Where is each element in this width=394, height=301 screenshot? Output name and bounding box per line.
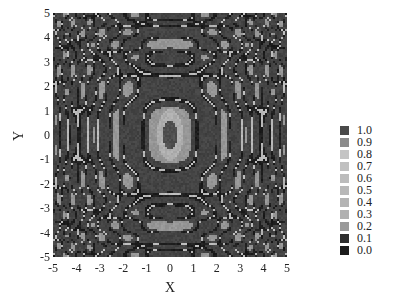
x-tick-label: 4 <box>254 262 274 274</box>
y-tick-label: -2 <box>36 178 50 190</box>
x-tick-label: 0 <box>160 262 180 274</box>
y-axis-label: Y <box>11 131 27 141</box>
y-tick-label: 5 <box>36 7 50 19</box>
x-axis-label: X <box>162 280 178 296</box>
y-tick-label: -3 <box>36 202 50 214</box>
legend-entry: 0.0 <box>340 244 390 256</box>
y-tick-label: 4 <box>36 31 50 43</box>
y-tick-label: 2 <box>36 80 50 92</box>
x-tick-label: -2 <box>113 262 133 274</box>
x-tick-label: -3 <box>90 262 110 274</box>
y-tick-label: -1 <box>36 153 50 165</box>
heatmap-plot-area <box>53 13 287 257</box>
legend-swatch <box>340 138 349 147</box>
legend-swatch <box>340 126 349 135</box>
x-tick-label: 2 <box>207 262 227 274</box>
legend-label: 0.0 <box>357 244 372 256</box>
legend-swatch <box>340 246 349 255</box>
x-tick-label: 5 <box>277 262 297 274</box>
x-tick-label: 1 <box>183 262 203 274</box>
legend-swatch <box>340 222 349 231</box>
x-tick-label: 3 <box>230 262 250 274</box>
legend-swatch <box>340 174 349 183</box>
y-tick-label: 0 <box>36 129 50 141</box>
x-tick-label: -1 <box>137 262 157 274</box>
legend-swatch <box>340 198 349 207</box>
x-tick-label: -4 <box>66 262 86 274</box>
legend-swatch <box>340 162 349 171</box>
legend-swatch <box>340 150 349 159</box>
x-tick-label: -5 <box>43 262 63 274</box>
legend-swatch <box>340 234 349 243</box>
y-tick-label: 1 <box>36 105 50 117</box>
legend-swatch <box>340 210 349 219</box>
y-tick-label: -4 <box>36 227 50 239</box>
y-tick-label: 3 <box>36 56 50 68</box>
legend-swatch <box>340 186 349 195</box>
